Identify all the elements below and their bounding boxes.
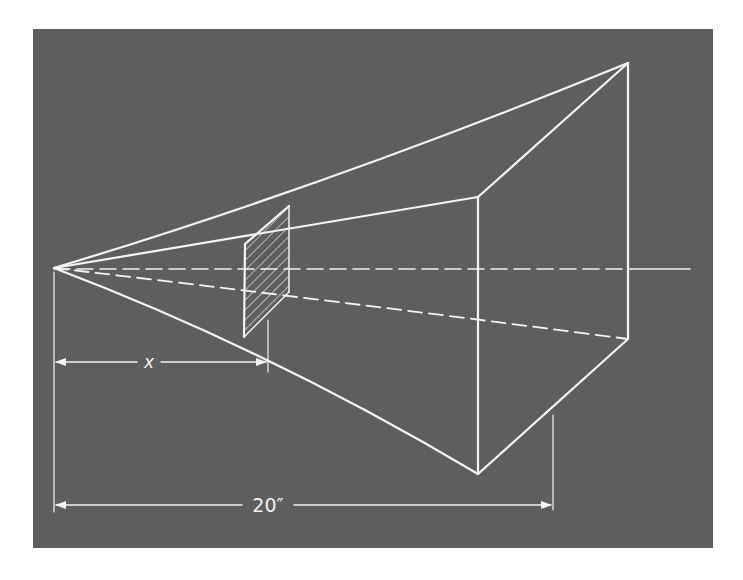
length-dimension-label: 20″ xyxy=(252,494,283,516)
pyramid-cross-section-diagram: x 20″ xyxy=(0,0,743,580)
figure-background xyxy=(33,29,713,548)
x-dimension-label: x xyxy=(143,352,155,372)
